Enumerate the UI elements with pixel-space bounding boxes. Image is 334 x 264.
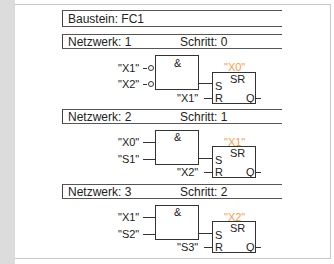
n3-input-2: "S2" [118, 228, 139, 240]
n2-input-1: "X0" [118, 136, 139, 148]
left-margin-bar [0, 0, 15, 264]
network-1-label: Netzwerk: 1 [68, 35, 131, 49]
n3-pin-r: R [215, 241, 223, 253]
n1-negation-2-icon [148, 81, 154, 87]
n3-sr-symbol: SR [230, 222, 245, 234]
network-1-step: Schritt: 0 [180, 35, 227, 49]
n3-input-1: "X1" [118, 211, 139, 223]
network-3-header: Netzwerk: 3 Schritt: 2 [62, 184, 282, 199]
network-3-step: Schritt: 2 [180, 185, 227, 199]
n3-pin-q: Q [246, 241, 255, 253]
n2-input-2: "S1" [118, 153, 139, 165]
n2-and-symbol: & [174, 131, 181, 143]
n3-and-symbol: & [174, 206, 181, 218]
network-3-label: Netzwerk: 3 [68, 185, 131, 199]
n3-pin-s: S [215, 229, 222, 241]
n1-pin-q: Q [246, 92, 255, 104]
network-2-label: Netzwerk: 2 [68, 110, 131, 124]
network-1-header: Netzwerk: 1 Schritt: 0 [62, 34, 282, 49]
n2-pin-q: Q [246, 166, 255, 178]
n2-pin-s: S [215, 154, 222, 166]
block-header: Baustein: FC1 [62, 10, 282, 27]
n3-reset-input: "S3" [177, 241, 198, 253]
n2-reset-input: "X2" [177, 166, 198, 178]
n1-input-1: "X1" [118, 62, 139, 74]
n1-and-symbol: & [174, 57, 181, 69]
n1-pin-s: S [215, 80, 222, 92]
n2-sr-symbol: SR [230, 147, 245, 159]
block-label: Baustein: FC1 [68, 12, 144, 26]
n1-input-2: "X2" [118, 78, 139, 90]
n1-sr-symbol: SR [230, 73, 245, 85]
n1-negation-1-icon [148, 65, 154, 71]
n1-pin-r: R [215, 92, 223, 104]
network-2-step: Schritt: 1 [180, 110, 227, 124]
n1-reset-input: "X1" [177, 92, 198, 104]
network-2-header: Netzwerk: 2 Schritt: 1 [62, 109, 282, 124]
n2-pin-r: R [215, 166, 223, 178]
